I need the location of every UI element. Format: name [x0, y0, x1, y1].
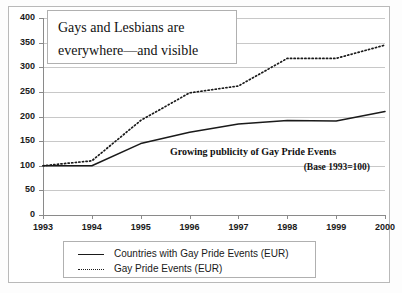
- x-tick-label: 1999: [316, 222, 356, 232]
- y-tick-label: 350: [5, 37, 35, 47]
- y-tick-label: 300: [5, 61, 35, 71]
- chart-title-box: Gays and Lesbians are everywhere—and vis…: [47, 10, 237, 64]
- x-tick-mark: [287, 215, 288, 219]
- chart-title-line-2: everywhere—and visible: [58, 39, 228, 62]
- x-tick-mark: [92, 215, 93, 219]
- x-tick-mark: [43, 215, 44, 219]
- y-tick-label: 100: [5, 160, 35, 170]
- chart-subtitle-note: (Base 1993=100): [170, 162, 378, 172]
- chart-subtitle-block: Growing publicity of Gay Pride Events (B…: [170, 146, 378, 172]
- x-tick-mark: [336, 215, 337, 219]
- x-tick-label: 1996: [170, 222, 210, 232]
- x-tick-mark: [385, 215, 386, 219]
- y-tick-label: 250: [5, 86, 35, 96]
- chart-title-line-1: Gays and Lesbians are: [58, 16, 228, 39]
- x-tick-mark: [190, 215, 191, 219]
- chart-figure: 050100150200250300350400 199319941995199…: [0, 0, 402, 293]
- legend-item-countries-with-gay-pride-events: Countries with Gay Pride Events (EUR): [76, 246, 315, 261]
- x-axis-line: [43, 215, 385, 216]
- legend-item-gay-pride-events: Gay Pride Events (EUR): [76, 261, 315, 276]
- legend-item-label: Countries with Gay Pride Events (EUR): [114, 248, 289, 259]
- x-tick-label: 1998: [267, 222, 307, 232]
- y-tick-label: 0: [5, 209, 35, 219]
- legend-solid-line-icon: [76, 249, 106, 259]
- x-tick-mark: [141, 215, 142, 219]
- x-tick-label: 1993: [23, 222, 63, 232]
- legend-item-label: Gay Pride Events (EUR): [114, 263, 222, 274]
- y-tick-label: 50: [5, 184, 35, 194]
- y-tick-label: 200: [5, 111, 35, 121]
- x-tick-label: 1995: [121, 222, 161, 232]
- y-tick-label: 150: [5, 135, 35, 145]
- y-tick-label: 400: [5, 12, 35, 22]
- x-tick-label: 1997: [218, 222, 258, 232]
- x-tick-mark: [238, 215, 239, 219]
- legend-dotted-line-icon: [76, 264, 106, 274]
- chart-subtitle: Growing publicity of Gay Pride Events: [170, 146, 378, 157]
- chart-legend: Countries with Gay Pride Events (EUR) Ga…: [63, 241, 316, 278]
- x-tick-label: 2000: [365, 222, 402, 232]
- x-tick-label: 1994: [72, 222, 112, 232]
